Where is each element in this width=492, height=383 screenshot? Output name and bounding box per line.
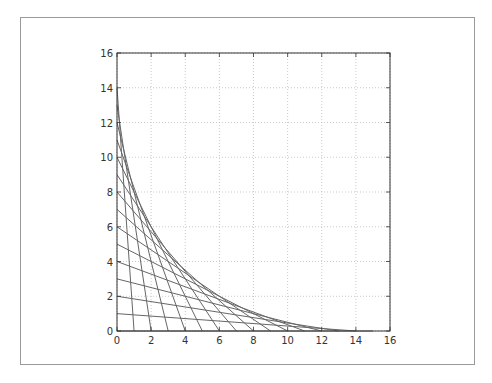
y-tick-label: 4	[107, 257, 113, 268]
string-line	[117, 157, 202, 331]
string-line	[117, 123, 168, 332]
x-tick-label: 10	[281, 335, 294, 346]
x-tick-label: 16	[384, 335, 397, 346]
y-tick-label: 10	[100, 152, 113, 163]
data-lines	[117, 88, 373, 331]
string-line	[117, 192, 236, 331]
x-tick-label: 4	[182, 335, 188, 346]
x-tick-label: 14	[350, 335, 363, 346]
x-tick-label: 8	[250, 335, 256, 346]
y-tick-label: 16	[100, 48, 113, 59]
x-tick-label: 12	[315, 335, 328, 346]
y-tick-label: 14	[100, 83, 113, 94]
x-tick-label: 2	[148, 335, 154, 346]
x-tick-label: 0	[114, 335, 120, 346]
string-line	[117, 244, 288, 331]
y-tick-label: 12	[100, 118, 113, 129]
chart-canvas: 0246810121416 0246810121416	[0, 0, 492, 383]
y-tick-label: 8	[107, 187, 113, 198]
y-tick-label: 0	[107, 326, 113, 337]
x-tick-labels: 0246810121416	[114, 335, 397, 346]
y-tick-labels: 0246810121416	[100, 48, 113, 337]
y-tick-label: 6	[107, 222, 113, 233]
x-tick-label: 6	[216, 335, 222, 346]
y-tick-label: 2	[107, 291, 113, 302]
